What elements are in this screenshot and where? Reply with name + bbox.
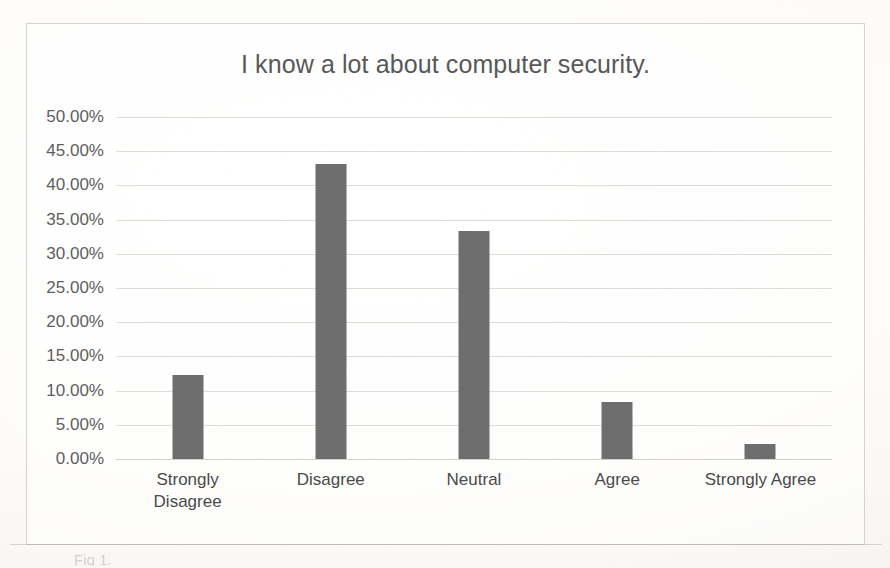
plot-area: 50.00%45.00%40.00%35.00%30.00%25.00%20.0… bbox=[116, 117, 832, 459]
bar-slot bbox=[402, 117, 545, 459]
chart-title: I know a lot about computer security. bbox=[27, 50, 864, 79]
bar bbox=[459, 231, 490, 459]
x-axis-category-label: Strongly Disagree bbox=[116, 469, 259, 514]
y-axis-tick-label: 35.00% bbox=[46, 210, 104, 230]
y-axis-tick-label: 25.00% bbox=[46, 278, 104, 298]
y-axis-tick-label: 10.00% bbox=[46, 381, 104, 401]
x-axis-category-label: Disagree bbox=[259, 469, 402, 514]
bar bbox=[172, 375, 203, 459]
bar-slot bbox=[546, 117, 689, 459]
y-axis-tick-label: 45.00% bbox=[46, 141, 104, 161]
figure-caption: Fig 1. bbox=[74, 551, 112, 566]
chart-figure: I know a lot about computer security. 50… bbox=[26, 23, 865, 545]
x-axis-category-label: Agree bbox=[546, 469, 689, 514]
x-axis-category-label: Neutral bbox=[402, 469, 545, 514]
bar bbox=[315, 164, 346, 459]
y-axis-tick-label: 40.00% bbox=[46, 175, 104, 195]
y-axis-tick-label: 20.00% bbox=[46, 312, 104, 332]
y-axis-tick-label: 0.00% bbox=[56, 449, 104, 469]
bar-slot bbox=[116, 117, 259, 459]
y-axis-tick-label: 50.00% bbox=[46, 107, 104, 127]
gridline bbox=[116, 459, 832, 460]
bar bbox=[745, 444, 776, 459]
bar-slot bbox=[689, 117, 832, 459]
page-rule-line bbox=[10, 544, 882, 545]
bar bbox=[602, 402, 633, 459]
y-axis-tick-label: 30.00% bbox=[46, 244, 104, 264]
bar-slot bbox=[259, 117, 402, 459]
x-axis-category-labels: Strongly DisagreeDisagreeNeutralAgreeStr… bbox=[116, 469, 832, 514]
x-axis-category-label: Strongly Agree bbox=[689, 469, 832, 514]
y-axis-tick-label: 5.00% bbox=[56, 415, 104, 435]
bar-series bbox=[116, 117, 832, 459]
y-axis-tick-label: 15.00% bbox=[46, 346, 104, 366]
